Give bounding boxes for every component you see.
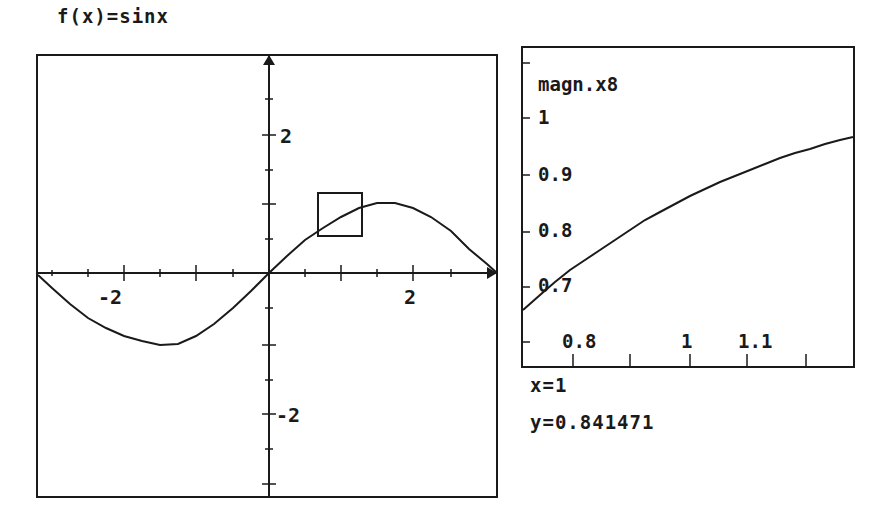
x-tick-label-2: 2 (404, 285, 416, 309)
magnified-sine-curve (523, 137, 853, 310)
magnified-plot-frame (522, 47, 854, 367)
x-readout: x=1 (530, 374, 567, 396)
zoom-region-box (318, 193, 362, 236)
magnification-label: magn.x8 (538, 73, 618, 95)
magnified-x-label-1.1: 1.1 (738, 330, 772, 352)
magnified-y-label-0.8: 0.8 (538, 219, 572, 241)
magnified-x-label-1: 1 (681, 330, 692, 352)
y-axis-arrow-icon (263, 55, 275, 65)
y-tick-label-2: 2 (280, 124, 292, 148)
magnified-x-label-0.8: 0.8 (562, 330, 596, 352)
x-tick-label-neg2: -2 (98, 285, 122, 309)
magnified-y-label-0.9: 0.9 (538, 163, 572, 185)
magnified-y-ticks (522, 63, 530, 342)
magnified-x-ticks (573, 354, 806, 367)
magnified-y-label-1: 1 (538, 106, 549, 128)
y-tick-label-neg2: -2 (276, 403, 300, 427)
y-readout: y=0.841471 (530, 411, 654, 433)
plots-canvas: -2 2 2 -2 magn.x8 1 0.9 0.8 0.7 0.8 1 1.… (0, 0, 888, 509)
